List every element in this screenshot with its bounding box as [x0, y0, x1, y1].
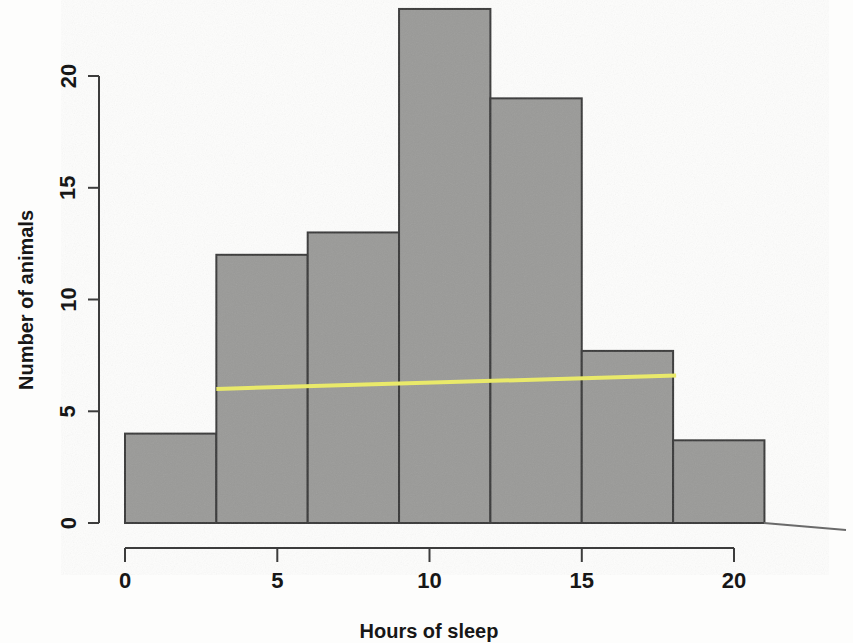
y-tick-label-20: 20: [56, 64, 81, 88]
y-tick-label-15: 15: [56, 176, 81, 200]
y-tick-label-0: 0: [56, 517, 81, 529]
x-tick-label-20: 20: [722, 568, 746, 593]
y-tick-label-10: 10: [56, 287, 81, 311]
x-axis-title: Hours of sleep: [360, 620, 499, 642]
x-tick-label-10: 10: [417, 568, 441, 593]
histogram-plot: 20 15 10 5 0 Number of animals 0 5 10 15…: [0, 0, 853, 643]
y-axis-title: Number of animals: [15, 210, 37, 390]
x-tick-label-5: 5: [271, 568, 283, 593]
y-tick-label-5: 5: [56, 405, 81, 417]
histogram-figure: 20 15 10 5 0 Number of animals 0 5 10 15…: [0, 0, 853, 643]
x-tick-label-0: 0: [119, 568, 131, 593]
x-tick-label-15: 15: [570, 568, 594, 593]
paper-grain-overlay: [125, 9, 765, 523]
